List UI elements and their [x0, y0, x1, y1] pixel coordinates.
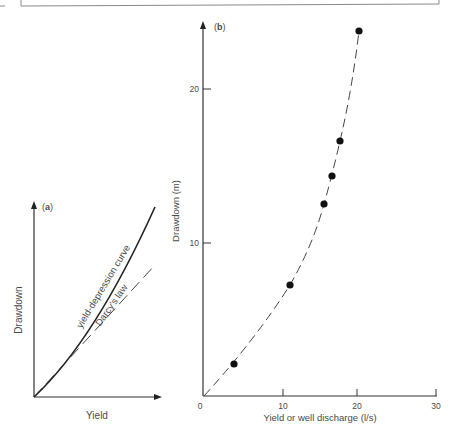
panel-b-xlabel: Yield or well discharge (l/s)	[263, 412, 376, 423]
x-tick-10: 10	[278, 401, 288, 411]
data-point	[286, 281, 293, 288]
fit-curve	[204, 31, 359, 396]
panel-b-tag: (b)	[214, 22, 226, 32]
figure: (a) Yield Drawdown yield-depression curv…	[0, 0, 457, 439]
data-point	[320, 200, 327, 207]
x-tick-0: 0	[198, 401, 203, 411]
panel-a-ylabel: Drawdown	[13, 286, 24, 333]
x-tick-30: 30	[431, 401, 441, 411]
data-point	[355, 27, 362, 34]
panel-a-xlabel: Yield	[86, 410, 108, 421]
data-point	[230, 360, 237, 367]
data-points	[230, 27, 362, 367]
data-point	[336, 137, 343, 144]
top-box-border	[0, 0, 439, 6]
panel-b-ylabel: Drawdown (m)	[170, 180, 181, 242]
panel-b: 0 10 20 30 10 20 (b) Yield or well disch…	[170, 21, 441, 423]
panel-a-tag: (a)	[42, 202, 53, 212]
panel-a-x-arrow-icon	[154, 394, 162, 400]
panel-b-y-arrow-icon	[200, 21, 206, 29]
y-tick-10: 10	[190, 238, 200, 248]
panel-b-ticks	[203, 89, 436, 396]
y-tick-20: 20	[190, 84, 200, 94]
x-tick-20: 20	[352, 401, 362, 411]
panel-a-y-arrow-icon	[31, 201, 37, 209]
data-point	[328, 172, 335, 179]
panel-a: (a) Yield Drawdown yield-depression curv…	[13, 201, 162, 421]
